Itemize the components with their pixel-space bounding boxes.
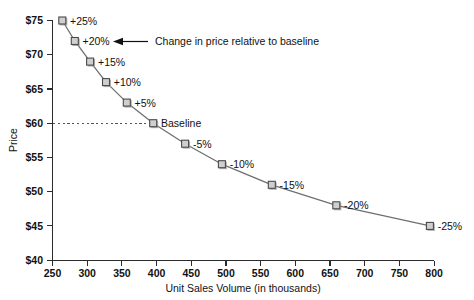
- x-tick-label-800: 800: [425, 267, 443, 279]
- data-point-label-5: Baseline: [161, 117, 201, 129]
- data-point-label-0: +25%: [70, 15, 97, 27]
- x-tick-label-350: 350: [113, 267, 131, 279]
- x-tick-label-650: 650: [321, 267, 339, 279]
- data-point-label-7: -10%: [230, 158, 255, 170]
- y-tick-label-50: $50: [25, 185, 43, 197]
- chart-container: $75 $70 $65 $60 $55 $50 $45 $40 250 300 …: [0, 0, 474, 300]
- x-tick-label-550: 550: [252, 267, 270, 279]
- data-point-label-6: -5%: [193, 138, 212, 150]
- x-tick-label-750: 750: [391, 267, 409, 279]
- data-point-label-10: -25%: [438, 220, 463, 232]
- price-volume-line-chart: $75 $70 $65 $60 $55 $50 $45 $40 250 300 …: [0, 0, 474, 300]
- x-tick-label-300: 300: [78, 267, 96, 279]
- data-point-label-1: +20%: [83, 35, 110, 47]
- x-axis-ticks: [53, 261, 435, 267]
- data-point-label-4: +5%: [135, 97, 156, 109]
- y-tick-label-55: $55: [25, 151, 43, 163]
- y-tick-label-75: $75: [25, 14, 43, 26]
- x-tick-label-400: 400: [148, 267, 166, 279]
- data-point-marker-9[interactable]: [333, 202, 340, 209]
- x-tick-label-250: 250: [44, 267, 62, 279]
- callout-label: Change in price relative to baseline: [155, 35, 319, 47]
- data-point-marker-3[interactable]: [103, 79, 110, 86]
- y-tick-label-70: $70: [25, 48, 43, 60]
- x-tick-label-500: 500: [217, 267, 235, 279]
- data-point-label-3: +10%: [114, 76, 141, 88]
- data-point-marker-5[interactable]: [150, 120, 157, 127]
- data-point-marker-4[interactable]: [123, 99, 130, 106]
- change-in-price-callout: Change in price relative to baseline: [113, 35, 319, 47]
- data-point-marker-2[interactable]: [87, 58, 94, 65]
- y-tick-label-60: $60: [25, 117, 43, 129]
- data-point-label-8: -15%: [280, 179, 305, 191]
- y-tick-label-40: $40: [25, 254, 43, 266]
- data-point-markers: [59, 17, 435, 231]
- data-point-marker-0[interactable]: [59, 17, 66, 24]
- data-point-marker-10[interactable]: [426, 222, 433, 229]
- y-axis-ticks: [47, 21, 53, 261]
- data-point-marker-1[interactable]: [71, 38, 78, 45]
- data-point-marker-7[interactable]: [218, 161, 225, 168]
- x-axis-title: Unit Sales Volume (in thousands): [165, 282, 320, 294]
- data-point-label-2: +15%: [98, 56, 125, 68]
- x-tick-label-600: 600: [287, 267, 305, 279]
- y-axis-title: Price: [7, 128, 19, 152]
- data-point-label-9: -20%: [344, 199, 369, 211]
- page-bottom-artifact: [2, 294, 122, 300]
- y-tick-label-45: $45: [25, 220, 43, 232]
- callout-arrow-head-icon: [113, 38, 123, 45]
- data-point-marker-8[interactable]: [268, 181, 275, 188]
- y-tick-label-65: $65: [25, 83, 43, 95]
- x-tick-label-450: 450: [183, 267, 201, 279]
- data-point-marker-6[interactable]: [182, 140, 189, 147]
- x-tick-label-700: 700: [356, 267, 374, 279]
